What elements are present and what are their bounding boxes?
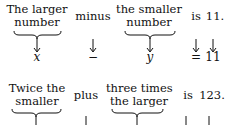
underbrace-icon: [125, 31, 175, 39]
underbrace-icon: [12, 109, 61, 117]
underbrace-icon: [112, 109, 163, 117]
underbrace-icon: [14, 31, 61, 39]
braces-arrows-layer: [0, 0, 228, 125]
